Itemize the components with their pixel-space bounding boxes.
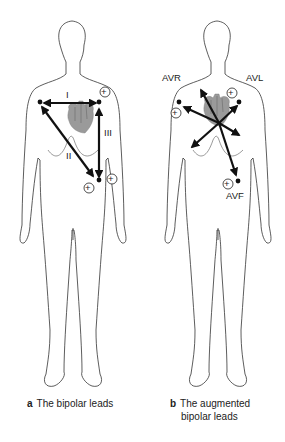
caption-b-letter: b — [170, 398, 176, 409]
lead-label-avf: AVF — [226, 190, 244, 201]
caption-b: bThe augmented bipolar leads — [170, 397, 250, 423]
lead-label-avr: AVR — [162, 72, 181, 83]
caption-b-text-line2: bipolar leads — [181, 411, 238, 422]
caption-a-letter: a — [27, 398, 33, 409]
heart-icon — [68, 101, 94, 133]
panel-a-leads — [38, 87, 117, 193]
diagram-canvas — [0, 0, 285, 442]
positive-electrode-icon: + — [224, 178, 230, 189]
lead-label-iii: III — [104, 127, 112, 138]
positive-electrode-icon: + — [228, 87, 234, 98]
positive-electrode-icon: + — [172, 107, 178, 118]
lead-label-avl: AVL — [246, 72, 263, 83]
panel-a-body-figure — [20, 21, 126, 386]
caption-a-text: The bipolar leads — [37, 398, 114, 409]
caption-a: aThe bipolar leads — [27, 397, 113, 410]
lead-label-ii: II — [66, 150, 71, 161]
lead-label-i: I — [66, 89, 69, 100]
positive-electrode-icon: + — [85, 182, 91, 193]
caption-b-text-line1: The augmented — [180, 398, 250, 409]
positive-electrode-icon: + — [108, 173, 114, 184]
positive-electrode-icon: + — [101, 86, 107, 97]
